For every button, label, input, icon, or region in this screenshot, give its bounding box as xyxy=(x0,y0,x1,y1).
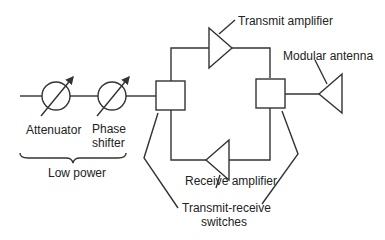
low-power-label: Low power xyxy=(48,166,106,180)
tr-module-diagram: Attenuator Phase shifter Low power Trans… xyxy=(0,0,385,240)
attenuator-label: Attenuator xyxy=(26,123,81,137)
switches-label-1: Transmit-receive xyxy=(182,201,271,215)
phase-shifter-icon xyxy=(97,77,129,116)
phase-shifter-label-2: shifter xyxy=(92,136,125,150)
transmit-amplifier-label: Transmit amplifier xyxy=(238,14,333,28)
antenna-icon xyxy=(319,74,342,113)
antenna-label: Modular antenna xyxy=(283,49,373,63)
transmit-amplifier-icon xyxy=(209,28,232,68)
transmit-path-right xyxy=(232,48,270,78)
right-switch-box xyxy=(256,79,285,108)
receive-path-right xyxy=(229,108,270,160)
receive-path-left xyxy=(171,110,206,160)
receive-amplifier-label: Receive amplifier xyxy=(185,174,277,188)
antenna-leader xyxy=(315,60,327,84)
switches-label-2: switches xyxy=(201,215,247,229)
phase-shifter-label-1: Phase xyxy=(92,122,126,136)
attenuator-icon xyxy=(41,77,73,116)
low-power-brace xyxy=(20,153,126,163)
left-switch-box xyxy=(156,81,185,110)
transmit-path-left xyxy=(171,48,209,81)
right-switch-leader xyxy=(262,111,298,204)
transmit-amp-leader xyxy=(219,20,235,34)
